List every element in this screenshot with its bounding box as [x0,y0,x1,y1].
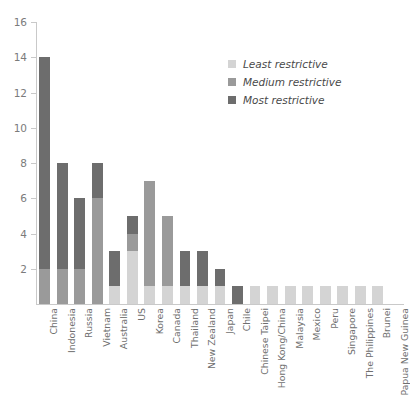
bar-segment[interactable] [232,286,243,304]
x-axis-label: Indonesia [66,308,77,353]
bar-segment[interactable] [180,286,191,304]
legend-label: Medium restrictive [243,76,341,88]
x-axis-label-text: Thailand [189,308,200,348]
x-axis-label-text: Peru [329,308,340,329]
bar-segment[interactable] [267,286,278,304]
bar-segment[interactable] [39,57,50,269]
legend-swatch [228,60,236,68]
x-axis-label-text: Vietnam [101,308,112,347]
bar-group[interactable] [337,286,348,304]
y-axis-tick-label: 10 [14,122,27,134]
legend-item[interactable]: Least restrictive [228,55,388,73]
x-axis-label-text: Canada [171,308,182,343]
bar-segment[interactable] [39,269,50,304]
x-axis-label-text: Russia [83,308,94,338]
x-axis-label: Vietnam [101,308,112,347]
y-axis-tick-label: 12 [14,87,27,99]
bar-group[interactable] [250,286,261,304]
y-axis-tick-label: 14 [14,51,27,63]
x-axis-label: Singapore [346,308,357,355]
x-axis-label: Thailand [189,308,200,348]
bar-segment[interactable] [197,286,208,304]
legend-item[interactable]: Most restrictive [228,91,388,109]
bar-segment[interactable] [162,216,173,287]
x-axis-label: Chile [241,308,252,331]
bar-segment[interactable] [215,286,226,304]
x-axis-label-text: Australia [118,308,129,349]
bar-group[interactable] [74,198,85,304]
bar-group[interactable] [232,286,243,304]
bar-group[interactable] [215,269,226,304]
bar-segment[interactable] [355,286,366,304]
bar-segment[interactable] [127,251,138,304]
bar-segment[interactable] [144,286,155,304]
y-axis-tick: 12 [0,87,36,99]
legend-label: Most restrictive [243,94,325,106]
x-axis-label: Hong Kong/China [276,308,287,388]
x-axis-label-text: Indonesia [66,308,77,353]
bar-segment[interactable] [74,198,85,269]
bar-group[interactable] [355,286,366,304]
bar-segment[interactable] [372,286,383,304]
bar-group[interactable] [144,181,155,304]
bar-group[interactable] [39,57,50,304]
x-axis-label: Papua New Guinea [399,308,410,396]
y-axis-tick-label: 8 [20,157,27,169]
bar-segment[interactable] [127,234,138,252]
bar-segment[interactable] [57,163,68,269]
x-axis-label: Malaysia [294,308,305,349]
bar-segment[interactable] [162,286,173,304]
bar-segment[interactable] [197,251,208,286]
x-axis-label-text: Chinese Taipei [259,308,270,375]
x-axis-label: Australia [118,308,129,349]
bar-group[interactable] [372,286,383,304]
bar-segment[interactable] [285,286,296,304]
bar-segment[interactable] [127,216,138,234]
bar-segment[interactable] [144,181,155,287]
x-axis-label-text: Hong Kong/China [276,308,287,388]
x-axis-label: Canada [171,308,182,343]
y-axis-tick-label: 2 [20,263,27,275]
bar-segment[interactable] [250,286,261,304]
x-axis-label: Korea [154,308,165,334]
bar-segment[interactable] [180,251,191,286]
bar-group[interactable] [92,163,103,304]
x-axis-label-text: Papua New Guinea [399,308,410,396]
x-axis-label-text: Mexico [311,308,322,340]
bar-segment[interactable] [57,269,68,304]
bar-group[interactable] [267,286,278,304]
bar-group[interactable] [320,286,331,304]
x-axis-label: Japan [224,308,235,334]
bar-segment[interactable] [92,163,103,198]
bar-segment[interactable] [92,198,103,304]
bar-group[interactable] [109,251,120,304]
bar-segment[interactable] [302,286,313,304]
x-axis-label: Mexico [311,308,322,340]
bar-segment[interactable] [74,269,85,304]
y-axis-tick-label: 4 [20,228,27,240]
chart-legend: Least restrictiveMedium restrictiveMost … [228,55,388,109]
bar-group[interactable] [162,216,173,304]
y-axis-tick-label: 6 [20,192,27,204]
y-axis-tick: 14 [0,51,36,63]
bar-group[interactable] [180,251,191,304]
x-axis-label: New Zealand [206,308,217,369]
legend-label: Least restrictive [243,58,328,70]
bar-group[interactable] [197,251,208,304]
bar-group[interactable] [127,216,138,304]
x-axis-label: Russia [83,308,94,338]
bar-segment[interactable] [337,286,348,304]
legend-item[interactable]: Medium restrictive [228,73,388,91]
bar-group[interactable] [302,286,313,304]
bar-segment[interactable] [109,251,120,286]
legend-swatch [228,96,236,104]
bar-group[interactable] [57,163,68,304]
bar-group[interactable] [285,286,296,304]
x-axis-label-text: Chile [241,308,252,331]
bar-segment[interactable] [320,286,331,304]
y-axis-tick: 10 [0,122,36,134]
legend-swatch [228,78,236,86]
x-axis-label: China [48,308,59,335]
bar-segment[interactable] [215,269,226,287]
bar-segment[interactable] [109,286,120,304]
